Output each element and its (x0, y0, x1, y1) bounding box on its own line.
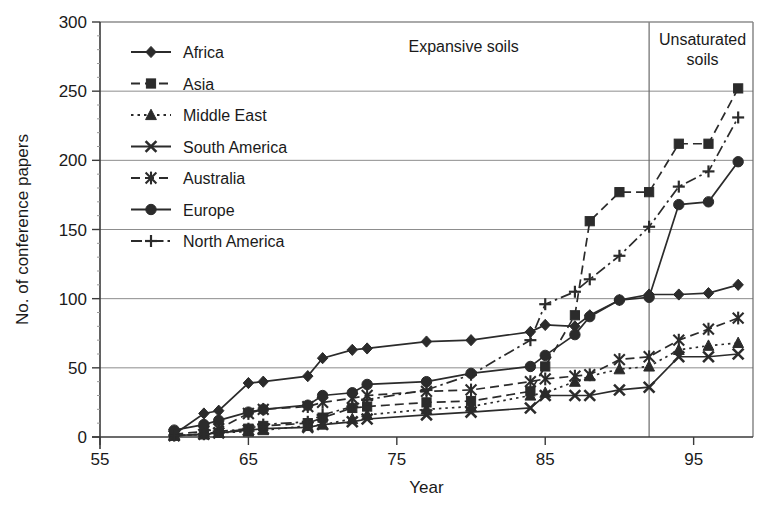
legend-item-north-america[interactable]: North America (131, 233, 284, 250)
series-asia (170, 84, 743, 440)
marker-square (585, 217, 594, 226)
marker-square (704, 139, 713, 148)
marker-circle (317, 390, 327, 400)
marker-asterisk (614, 353, 625, 366)
series-africa (169, 279, 743, 440)
marker-circle (214, 415, 224, 425)
series-north-america (168, 111, 744, 441)
marker-square (570, 311, 579, 320)
marker-circle (540, 350, 550, 360)
legend-item-africa[interactable]: Africa (131, 44, 224, 61)
legend-item-south-america[interactable]: South America (131, 139, 287, 156)
legend-label: Asia (183, 76, 214, 93)
marker-square (146, 79, 155, 88)
marker-diamond (703, 288, 713, 299)
x-tick-label: 95 (684, 450, 703, 469)
marker-triangle (733, 337, 744, 347)
y-tick-label: 50 (68, 359, 87, 378)
plot-annotations: Expansive soilsUnsaturatedsoils (408, 31, 746, 68)
legend-label: Middle East (183, 107, 267, 124)
x-axis-title: Year (409, 478, 444, 497)
marker-circle (303, 400, 313, 410)
marker-square (541, 362, 550, 371)
x-tick-label: 55 (91, 450, 110, 469)
marker-diamond (421, 336, 431, 347)
marker-triangle (146, 109, 157, 119)
marker-triangle (703, 340, 714, 350)
marker-circle (146, 204, 156, 214)
y-tick-label: 200 (59, 151, 87, 170)
legend-item-middle-east[interactable]: Middle East (131, 107, 267, 124)
y-tick-label: 250 (59, 82, 87, 101)
marker-circle (570, 329, 580, 339)
marker-circle (703, 197, 713, 207)
series-europe (169, 157, 743, 436)
legend-label: Australia (183, 170, 245, 187)
marker-circle (243, 407, 253, 417)
marker-diamond (347, 344, 357, 355)
marker-asterisk (703, 323, 714, 336)
marker-circle (199, 419, 209, 429)
legend-label: Africa (183, 44, 224, 61)
conference-papers-line-chart: 0501001502002503005565758595 Expansive s… (0, 0, 766, 518)
data-series (168, 84, 744, 442)
marker-asterisk (584, 368, 595, 381)
legend-label: North America (183, 233, 284, 250)
marker-diamond (540, 319, 550, 330)
y-tick-label: 150 (59, 221, 87, 240)
annotation-unsaturated-soils-line2: soils (687, 51, 719, 68)
marker-circle (644, 292, 654, 302)
marker-diamond (362, 343, 372, 354)
grid-lines (100, 22, 753, 368)
marker-plus (673, 181, 685, 193)
marker-square (615, 188, 624, 197)
marker-circle (525, 361, 535, 371)
marker-circle (362, 379, 372, 389)
marker-asterisk (673, 334, 684, 347)
marker-diamond (733, 279, 743, 290)
marker-circle (585, 311, 595, 321)
x-tick-label: 75 (387, 450, 406, 469)
legend: AfricaAsiaMiddle EastSouth AmericaAustra… (131, 44, 287, 250)
chart-figure: 0501001502002503005565758595 Expansive s… (0, 0, 766, 518)
marker-diamond (146, 46, 156, 57)
legend-item-europe[interactable]: Europe (131, 202, 235, 219)
marker-plus (145, 235, 157, 247)
marker-diamond (258, 376, 268, 387)
y-tick-label: 0 (78, 428, 87, 447)
marker-plus (732, 111, 744, 123)
marker-circle (258, 404, 268, 414)
marker-circle (347, 388, 357, 398)
marker-square (645, 188, 654, 197)
marker-plus (702, 165, 714, 177)
legend-item-asia[interactable]: Asia (131, 76, 214, 93)
annotation-unsaturated-soils-line1: Unsaturated (659, 31, 746, 48)
legend-label: South America (183, 139, 287, 156)
x-tick-label: 85 (536, 450, 555, 469)
y-tick-label: 100 (59, 290, 87, 309)
marker-circle (733, 157, 743, 167)
marker-asterisk (733, 312, 744, 325)
marker-square (674, 139, 683, 148)
marker-plus (539, 298, 551, 310)
marker-circle (674, 199, 684, 209)
legend-label: Europe (183, 202, 235, 219)
marker-diamond (199, 408, 209, 419)
y-axis-title: No. of conference papers (13, 134, 32, 325)
legend-item-australia[interactable]: Australia (131, 170, 245, 187)
series-line (174, 117, 738, 435)
marker-diamond (466, 335, 476, 346)
y-tick-label: 300 (59, 13, 87, 32)
x-tick-label: 65 (239, 450, 258, 469)
marker-plus (524, 334, 536, 346)
marker-square (734, 84, 743, 93)
annotation-expansive-soils: Expansive soils (408, 38, 518, 55)
marker-circle (614, 295, 624, 305)
